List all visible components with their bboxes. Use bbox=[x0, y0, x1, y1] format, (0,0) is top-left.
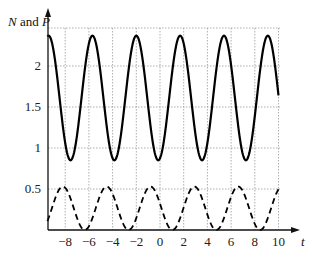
x-axis-arrow-icon bbox=[291, 227, 300, 233]
x-tick-label: 6 bbox=[228, 234, 235, 249]
y-tick-label: 1 bbox=[35, 140, 42, 155]
x-tick-label: 8 bbox=[252, 234, 259, 249]
grid bbox=[48, 28, 280, 230]
x-tick-label: −6 bbox=[82, 234, 96, 249]
series-N bbox=[47, 36, 278, 161]
x-tick-label: 2 bbox=[180, 234, 187, 249]
x-tick-label: −2 bbox=[129, 234, 143, 249]
axes bbox=[45, 8, 300, 233]
population-chart: −8−6−4−202468100.511.52N and Pt bbox=[0, 0, 312, 265]
y-tick-label: 2 bbox=[35, 58, 42, 73]
y-tick-label: 0.5 bbox=[25, 181, 41, 196]
x-tick-label: −8 bbox=[58, 234, 72, 249]
x-tick-label: 4 bbox=[204, 234, 211, 249]
series-P bbox=[47, 187, 278, 230]
x-axis-label: t bbox=[301, 234, 305, 249]
y-tick-label: 1.5 bbox=[25, 99, 41, 114]
x-tick-label: 0 bbox=[157, 234, 164, 249]
x-tick-label: −4 bbox=[106, 234, 120, 249]
x-tick-label: 10 bbox=[272, 234, 285, 249]
y-axis-label: N and P bbox=[7, 14, 50, 29]
